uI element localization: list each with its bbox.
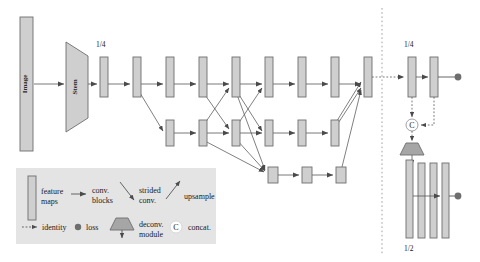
legend-panel: feature maps conv. blocks strided conv. … [16,168,216,244]
legend-conv-blocks-line1: conv. [92,186,109,195]
legend-feature-maps-line2: maps [41,197,58,206]
input-image-label: Image [21,75,29,94]
legend-loss-dot [75,224,81,230]
stem-block: Stem [66,42,88,132]
concat-node-label: C [409,121,414,130]
scale-label-backbone-quarter: 1/4 [96,40,106,49]
legend-loss-label: loss [86,223,98,232]
legend-feature-maps-line1: feature [41,187,64,196]
deconv-module-head [400,143,424,155]
legend-strided-conv-line2: conv. [139,196,156,205]
loss-dot-quarter [455,74,462,81]
architecture-diagram: Image Stem 1/4 [0,0,480,262]
edge-head-skip-to-concat [421,97,434,125]
legend-deconv-module-line2: module [139,230,163,239]
legend-identity-label: identity [42,223,66,232]
loss-dot-half [455,193,462,200]
figure-canvas: Image Stem 1/4 [0,0,480,262]
branch-1-4-blocks [100,57,372,97]
legend-concat-icon: C [170,221,182,233]
legend-concat-label: concat. [188,223,211,232]
concat-node: C [406,119,418,131]
legend-upsample-label: upsample [184,192,215,201]
scale-label-head-quarter: 1/4 [404,40,414,49]
legend-conv-blocks-line2: blocks [92,196,113,205]
input-image-block: Image [20,17,33,151]
legend-concat-symbol: C [173,223,178,232]
scale-label-head-half: 1/2 [404,244,414,253]
head-bottom-blocks [406,160,449,238]
legend-feature-maps-swatch [28,176,36,220]
legend-strided-conv-line1: strided [139,186,161,195]
legend-deconv-module-line1: deconv. [139,220,164,229]
stem-label: Stem [71,79,79,94]
